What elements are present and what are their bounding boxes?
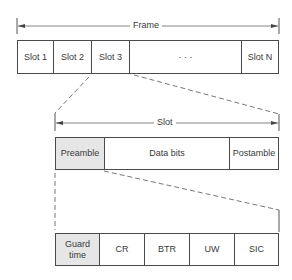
preamble-cr: CR [99, 233, 145, 266]
preamble-btr: BTR [144, 233, 190, 266]
preamble-uw: UW [189, 233, 235, 266]
guard-time-label: Guard time [62, 239, 93, 261]
preamble-guard-time: Guard time [55, 233, 100, 266]
slot-label: Slot [154, 117, 176, 127]
frame-slot-3: Slot 3 [91, 40, 130, 74]
slot-data-bits: Data bits [104, 137, 230, 170]
frame-label: Frame [130, 20, 162, 30]
slot-postamble: Postamble [229, 137, 279, 170]
frame-slot-n: Slot N [241, 40, 279, 74]
frame-slot-2: Slot 2 [53, 40, 92, 74]
frame-ellipsis: · · · [129, 40, 242, 74]
slot-preamble: Preamble [55, 137, 105, 170]
preamble-sic: SIC [234, 233, 279, 266]
frame-slot-1: Slot 1 [17, 40, 54, 74]
